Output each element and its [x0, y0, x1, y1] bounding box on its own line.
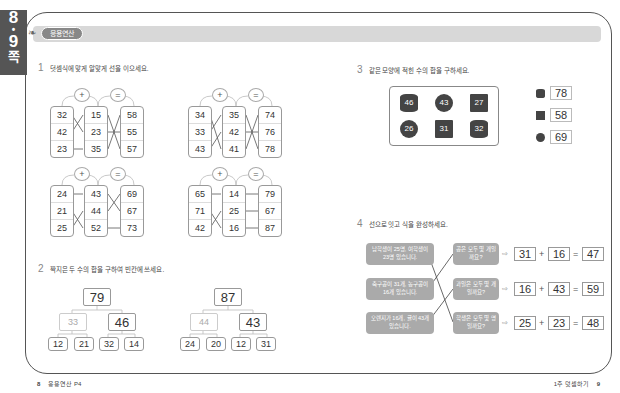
cell[interactable]: 35: [223, 107, 245, 124]
equals-sign: =: [110, 167, 126, 181]
cell[interactable]: 71: [189, 203, 211, 220]
q2-title: 2짝지은 두 수의 합을 구하여 빈칸에 쓰세요.: [38, 263, 164, 274]
cell[interactable]: 55: [121, 124, 143, 141]
q1-title: 1덧셈식에 맞게 알맞게 선을 이으세요.: [38, 62, 149, 73]
tree-leaf: 21: [74, 337, 94, 351]
equation-addend[interactable]: 23: [548, 316, 570, 330]
cell[interactable]: 44: [85, 203, 107, 220]
q1-title-text: 덧셈식에 맞게 알맞게 선을 이으세요.: [50, 65, 149, 72]
cell[interactable]: 14: [223, 186, 245, 203]
tree-left-answer[interactable]: 44: [190, 313, 218, 331]
equals-sign: =: [573, 284, 578, 294]
cell[interactable]: 33: [189, 124, 211, 141]
cell[interactable]: 24: [51, 186, 73, 203]
cube-sum-answer[interactable]: 58: [550, 108, 572, 122]
equation-addend[interactable]: 16: [548, 247, 570, 261]
left-page-number: 8: [37, 381, 40, 387]
tree-top-value: 87: [214, 288, 242, 306]
cube-shape: 27: [470, 94, 488, 112]
cell[interactable]: 21: [51, 203, 73, 220]
cell[interactable]: 23: [85, 124, 107, 141]
left-footer-label: 응용연산 P4: [48, 381, 81, 387]
sum-column: 58 55 57: [120, 106, 144, 158]
cell[interactable]: 87: [259, 220, 281, 237]
tree-leaf: 20: [206, 337, 226, 351]
equals-sign: =: [573, 318, 578, 328]
equation-addend[interactable]: 31: [514, 247, 536, 261]
cell[interactable]: 65: [189, 186, 211, 203]
cell[interactable]: 35: [85, 141, 107, 158]
cell[interactable]: 78: [259, 141, 281, 158]
footer-right: 1주 덧셈하기9: [554, 379, 600, 388]
equals-sign: =: [573, 249, 578, 259]
equation-addend[interactable]: 16: [514, 282, 536, 296]
cell[interactable]: 73: [121, 220, 143, 237]
cell[interactable]: 42: [223, 124, 245, 141]
arrow-icon: ⇨: [502, 319, 508, 327]
q4-title-text: 선으로 잇고 식을 완성하세요.: [369, 221, 448, 228]
cell[interactable]: 69: [121, 186, 143, 203]
cell[interactable]: 43: [85, 186, 107, 203]
q3-title-text: 같은 모양에 적힌 수의 합을 구하세요.: [369, 67, 470, 74]
q4-number: 4: [357, 218, 363, 229]
arrow-icon: ⇨: [502, 250, 508, 258]
arrow-icon: ⇨: [502, 285, 508, 293]
tree-leaf: 12: [48, 337, 68, 351]
right-footer-label: 1주 덧셈하기: [554, 381, 589, 387]
question-bubble: 공은 모두 몇 개일까요?: [453, 243, 499, 265]
q4-title: 4선으로 잇고 식을 완성하세요.: [357, 218, 448, 229]
cylinder-sum-answer[interactable]: 78: [550, 86, 572, 100]
cell[interactable]: 34: [189, 107, 211, 124]
cell[interactable]: 43: [189, 141, 211, 158]
sum-column: 69 67 73: [120, 185, 144, 237]
addend-column: 32 42 23: [50, 106, 74, 158]
cell[interactable]: 16: [223, 220, 245, 237]
cell[interactable]: 52: [85, 220, 107, 237]
cell[interactable]: 32: [51, 107, 73, 124]
plus-sign: +: [539, 284, 544, 294]
match-grid-1: + = 32 42 23 15 23 35 58 55 57: [50, 88, 170, 156]
addend-column: 15 23 35: [84, 106, 108, 158]
tree-leaf: 32: [99, 337, 119, 351]
cell[interactable]: 76: [259, 124, 281, 141]
ball-sum-answer[interactable]: 69: [550, 130, 572, 144]
cell[interactable]: 67: [259, 203, 281, 220]
cube-icon: [536, 111, 545, 120]
sum-column: 74 76 78: [258, 106, 282, 158]
cell[interactable]: 25: [223, 203, 245, 220]
q3-number: 3: [357, 64, 363, 75]
right-page-number: 9: [597, 381, 600, 387]
cell[interactable]: 15: [85, 107, 107, 124]
tree-leaf: 24: [180, 337, 200, 351]
cell[interactable]: 25: [51, 220, 73, 237]
cell[interactable]: 41: [223, 141, 245, 158]
leaf-icon: ❧: [28, 27, 36, 38]
equals-sign: =: [110, 88, 126, 102]
cell[interactable]: 74: [259, 107, 281, 124]
equation-addend[interactable]: 25: [514, 316, 536, 330]
cell[interactable]: 67: [121, 203, 143, 220]
q2-number: 2: [38, 263, 44, 274]
equation-sum[interactable]: 59: [582, 282, 604, 296]
tree-left-answer[interactable]: 33: [59, 313, 87, 331]
story-bubble: 축구공이 31개, 농구공이 16개 있습니다.: [366, 278, 434, 300]
equation-addend[interactable]: 43: [548, 282, 570, 296]
cell[interactable]: 79: [259, 186, 281, 203]
cube-shape: 31: [435, 120, 453, 138]
tree-top-value: 79: [83, 288, 111, 306]
tree-right-value: 46: [108, 313, 136, 331]
sum-column: 79 67 87: [258, 185, 282, 237]
cell[interactable]: 42: [51, 124, 73, 141]
equation-sum[interactable]: 47: [582, 247, 604, 261]
equals-sign: =: [248, 167, 264, 181]
page-suffix: 쪽: [0, 50, 27, 64]
match-grid-3: + = 24 21 25 43 44 52 69 67 73: [50, 167, 170, 235]
addend-column: 43 44 52: [84, 185, 108, 237]
plus-sign: +: [74, 167, 90, 181]
cell[interactable]: 57: [121, 141, 143, 158]
cell[interactable]: 42: [189, 220, 211, 237]
cell[interactable]: 58: [121, 107, 143, 124]
equation-sum[interactable]: 48: [582, 316, 604, 330]
footer-left: 8응용연산 P4: [37, 379, 81, 388]
cell[interactable]: 23: [51, 141, 73, 158]
